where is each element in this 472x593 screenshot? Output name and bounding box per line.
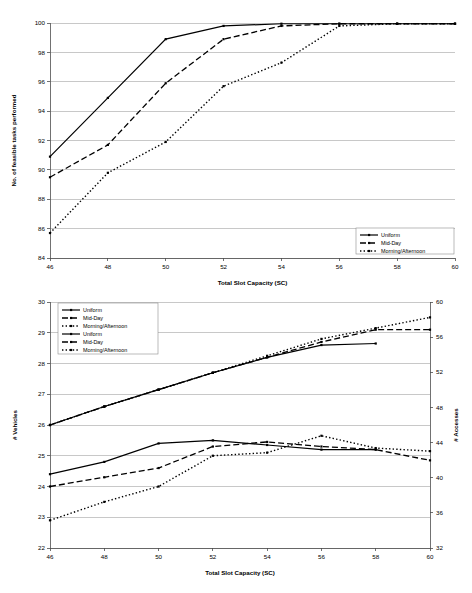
y-tick-label: 94 — [38, 107, 45, 114]
data-point — [338, 25, 340, 27]
data-point — [49, 232, 51, 234]
data-point — [320, 344, 322, 346]
x-tick-label: 56 — [318, 553, 325, 560]
y2-tick-label: 32 — [436, 544, 443, 551]
series-group — [49, 23, 456, 234]
legend-marker — [368, 234, 370, 236]
data-point — [222, 25, 224, 27]
x-tick-label: 50 — [155, 553, 162, 560]
gridlines — [50, 23, 455, 258]
y-axis-title: No. of feasible tasks performed — [10, 94, 17, 186]
legend-label: Morning/Afternoon — [83, 323, 127, 329]
y-tick-label: 84 — [38, 254, 45, 261]
legend: UniformMid-DayMorning/Afternoon — [356, 228, 454, 254]
data-point — [266, 444, 268, 446]
data-point — [320, 449, 322, 451]
y-tick-label: 30 — [38, 298, 45, 305]
data-point — [320, 445, 322, 447]
data-point — [212, 455, 214, 457]
data-point — [165, 38, 167, 40]
y2-tick-label: 56 — [436, 333, 443, 340]
x-tick-label: 48 — [104, 263, 111, 270]
data-point — [338, 23, 340, 25]
chart-top-canvas: 84868890929496981004648505254565860Total… — [0, 0, 472, 292]
data-point — [280, 23, 282, 25]
data-point — [157, 442, 159, 444]
data-point — [157, 485, 159, 487]
data-point — [49, 485, 51, 487]
data-point — [212, 372, 214, 374]
data-point — [375, 447, 377, 449]
data-point — [49, 176, 51, 178]
data-point — [49, 156, 51, 158]
data-point — [157, 389, 159, 391]
x-tick-label: 52 — [220, 263, 227, 270]
data-point — [165, 82, 167, 84]
x-tick-label: 46 — [47, 553, 54, 560]
data-point — [107, 97, 109, 99]
legend-marker — [70, 317, 72, 319]
data-point — [429, 450, 431, 452]
y-tick-label: 22 — [38, 544, 45, 551]
data-point — [107, 144, 109, 146]
x-tick-label: 46 — [47, 263, 54, 270]
data-point — [266, 355, 268, 357]
x-tick-label: 58 — [372, 553, 379, 560]
legend-label: Mid-Day — [381, 240, 401, 246]
series-line-morning-afternoon — [50, 24, 455, 233]
data-point — [320, 341, 322, 343]
x-tick-label: 54 — [264, 553, 271, 560]
legend-marker — [70, 325, 72, 327]
y-tick-label: 29 — [38, 329, 45, 336]
y2-tick-label: 36 — [436, 509, 443, 516]
y-tick-label: 86 — [38, 225, 45, 232]
data-point — [266, 441, 268, 443]
data-point — [165, 141, 167, 143]
y-tick-label: 25 — [38, 452, 45, 459]
legend-label: Uniform — [381, 232, 400, 238]
y-tick-label: 23 — [38, 513, 45, 520]
y2-tick-label: 52 — [436, 368, 443, 375]
chart-top-feasible-tasks: 84868890929496981004648505254565860Total… — [0, 0, 472, 292]
data-point — [375, 327, 377, 329]
data-point — [266, 452, 268, 454]
data-point — [280, 62, 282, 64]
data-point — [49, 519, 51, 521]
legend: UniformMid-DayMorning/AfternoonUniformMi… — [58, 303, 158, 354]
y-tick-label: 28 — [38, 360, 45, 367]
y2-tick-label: 60 — [436, 298, 443, 305]
data-point — [320, 435, 322, 437]
y-tick-label: 24 — [38, 483, 45, 490]
y-tick-label: 92 — [38, 137, 45, 144]
y-tick-label: 96 — [38, 78, 45, 85]
legend-label: Mid-Day — [83, 315, 103, 321]
y-axis-title: # Vehicles — [11, 409, 18, 439]
figure-page: 84868890929496981004648505254565860Total… — [0, 0, 472, 593]
data-point — [280, 25, 282, 27]
data-point — [454, 23, 456, 25]
legend-marker — [368, 250, 370, 252]
data-point — [103, 405, 105, 407]
legend-marker — [70, 333, 72, 335]
data-point — [212, 445, 214, 447]
series-line-mid-day — [50, 24, 455, 177]
y2-tick-label: 40 — [436, 474, 443, 481]
x-tick-label: 50 — [162, 263, 169, 270]
series-line-uniform — [50, 24, 455, 157]
legend-label: Uniform — [83, 307, 102, 313]
legend-marker — [368, 242, 370, 244]
data-point — [396, 23, 398, 25]
x-tick-label: 58 — [394, 263, 401, 270]
x-axis-title: Total Slot Capacity (SC) — [205, 569, 275, 576]
data-point — [103, 476, 105, 478]
data-point — [103, 461, 105, 463]
x-tick-label: 60 — [452, 263, 459, 270]
data-point — [429, 459, 431, 461]
data-point — [429, 316, 431, 318]
y-tick-label: 100 — [35, 19, 46, 26]
chart-bottom-vehicles-accesses: 2223242526272829303236404448525660464850… — [0, 292, 472, 593]
legend-label: Mid-Day — [83, 339, 103, 345]
legend-marker — [70, 341, 72, 343]
y2-tick-label: 44 — [436, 439, 443, 446]
series-line-right-uniform — [50, 344, 376, 425]
